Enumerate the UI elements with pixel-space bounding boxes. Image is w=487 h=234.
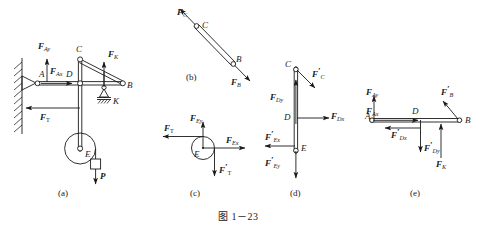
panel-b-force-F-B: FB — [231, 78, 241, 87]
panel-d-force-F-Dy: FDy — [270, 93, 283, 102]
panel-a-point-K: K — [113, 97, 119, 106]
panel-b-point-C: C — [202, 21, 208, 30]
panel-d-force-F-C-prime: F′C — [312, 70, 325, 79]
panel-d-force-F-Ey-prime: F′Ey — [265, 159, 280, 168]
panel-e-force-F-Dy-prime: F′Dy — [424, 144, 440, 153]
panel-a-point-C: C — [76, 45, 82, 54]
panel-c-force-F-T-prime: F′T — [219, 166, 231, 175]
panel-a-force-F-K: FK — [108, 50, 118, 59]
panel-a-point-A: A — [39, 70, 45, 79]
panel-e-force-F-B-prime: F′B — [441, 88, 453, 97]
panel-label-c: (c) — [190, 189, 200, 198]
panel-label-e: (e) — [410, 189, 420, 198]
panel-a-force-F-Ay: FAy — [38, 42, 50, 51]
panel-e-force-F-K: FK — [436, 160, 446, 169]
panel-c-point-E: E — [194, 150, 200, 159]
panel-e-force-F-Ax: FAx — [366, 107, 379, 116]
panel-a-force-P: P — [100, 172, 106, 181]
panel-a-point-B: B — [127, 81, 133, 90]
panel-d-force-F-Dx: FDx — [331, 112, 344, 121]
panel-b-force-F-C: FC — [177, 8, 187, 17]
panel-e-point-D: D — [412, 107, 419, 116]
panel-c-force-F-T: FT — [164, 124, 174, 133]
panel-label-a: (a) — [58, 189, 68, 198]
panel-a-force-F-Ax: FAx — [50, 67, 63, 76]
figure-caption: 图 1－23 — [218, 212, 259, 222]
figure-linework — [0, 0, 487, 234]
panel-e-force-F-Ay: FAy — [366, 88, 378, 97]
panel-d-point-D: D — [284, 113, 291, 122]
panel-b-point-B: B — [236, 55, 242, 64]
panel-d-point-C: C — [285, 60, 291, 69]
panel-a-point-E: E — [85, 150, 91, 159]
panel-a-force-F-T: FT — [40, 113, 50, 122]
panel-c-force-F-Ey: FEy — [190, 114, 203, 123]
panel-e-force-F-Dx-prime: F′Dx — [391, 131, 407, 140]
panel-label-b: (b) — [186, 73, 197, 82]
panel-e-point-B: B — [465, 116, 471, 125]
figure-1-23: A B C D E K FAy FAx FT FK P (a) C B FC F… — [0, 0, 487, 234]
panel-label-d: (d) — [290, 189, 301, 198]
panel-d-force-F-Ex-prime: F′Ex — [265, 133, 280, 142]
panel-d-point-E: E — [301, 144, 307, 153]
panel-c-force-F-Ex: FEx — [226, 136, 239, 145]
panel-a-point-D: D — [66, 70, 73, 79]
